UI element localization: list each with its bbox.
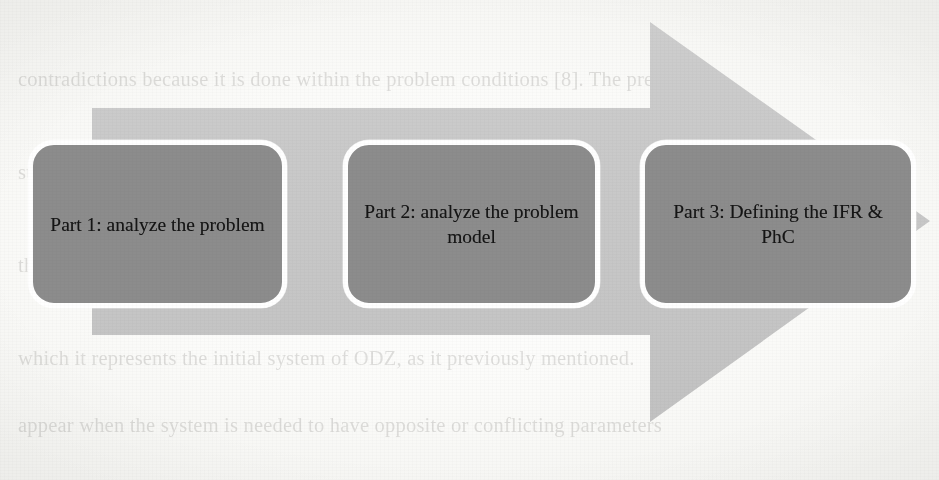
ghost-line: which it represents the initial system o… xyxy=(0,343,939,374)
scanned-page: contradictions because it is done within… xyxy=(0,0,939,480)
process-step-label: Part 1: analyze the problem xyxy=(38,212,276,237)
background-bleed-text-bottom: appear when the system is needed to have… xyxy=(0,348,939,480)
ghost-line: appear when the system is needed to have… xyxy=(0,410,939,441)
ghost-line: contradictions because it is done within… xyxy=(0,64,939,95)
process-step-box-part-3[interactable]: Part 3: Defining the IFR & PhC xyxy=(640,140,916,308)
process-step-box-part-1[interactable]: Part 1: analyze the problem xyxy=(28,140,287,308)
process-step-label: Part 2: analyze the problem model xyxy=(348,199,595,249)
process-step-label: Part 3: Defining the IFR & PhC xyxy=(645,199,911,249)
process-step-box-part-2[interactable]: Part 2: analyze the problem model xyxy=(343,140,600,308)
